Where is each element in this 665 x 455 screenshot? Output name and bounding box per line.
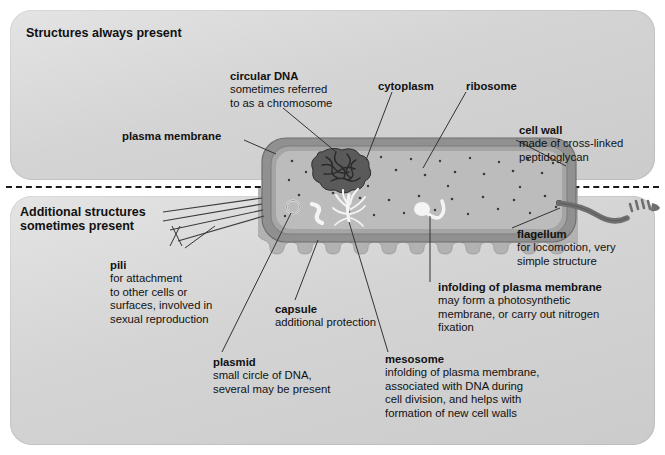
- label-body: for locomotion, very simple structure: [517, 241, 616, 268]
- label-plasma-membrane: plasma membrane: [122, 130, 221, 143]
- label-flagellum: flagellum for locomotion, very simple st…: [517, 228, 616, 268]
- label-heading: plasma membrane: [122, 130, 221, 143]
- label-body: may form a photosynthetic membrane, or c…: [438, 294, 602, 334]
- panel-divider-dashed-line: [6, 186, 659, 188]
- label-heading: flagellum: [517, 228, 616, 241]
- label-infolding-of-plasma-membrane: infolding of plasma membrane may form a …: [438, 281, 602, 335]
- label-heading: plasmid: [213, 356, 330, 369]
- label-heading: cytoplasm: [378, 80, 434, 93]
- panel-title-always-present: Structures always present: [26, 26, 182, 40]
- label-heading: pili: [110, 259, 212, 272]
- label-capsule: capsule additional protection: [275, 303, 376, 330]
- label-body: additional protection: [275, 316, 376, 329]
- label-heading: circular DNA: [230, 70, 332, 83]
- figure-canvas: Structures always present Additional str…: [0, 0, 665, 455]
- label-heading: capsule: [275, 303, 376, 316]
- label-body: sometimes referred to as a chromosome: [230, 83, 332, 110]
- label-body: made of cross-linked peptidoglycan: [519, 137, 623, 164]
- label-body: small circle of DNA, several may be pres…: [213, 369, 330, 396]
- panel-title-sometimes-present: Additional structures sometimes present: [20, 205, 146, 233]
- label-cytoplasm: cytoplasm: [378, 80, 434, 93]
- label-heading: infolding of plasma membrane: [438, 281, 602, 294]
- label-ribosome: ribosome: [466, 80, 517, 93]
- label-pili: pili for attachment to other cells or su…: [110, 259, 212, 326]
- label-circular-dna: circular DNA sometimes referred to as a …: [230, 70, 332, 110]
- label-mesosome: mesosome infolding of plasma membrane, a…: [385, 353, 539, 420]
- label-body: infolding of plasma membrane, associated…: [385, 366, 539, 420]
- label-cell-wall: cell wall made of cross-linked peptidogl…: [519, 124, 623, 164]
- label-heading: ribosome: [466, 80, 517, 93]
- label-heading: cell wall: [519, 124, 623, 137]
- label-heading: mesosome: [385, 353, 539, 366]
- label-plasmid: plasmid small circle of DNA, several may…: [213, 356, 330, 396]
- label-body: for attachment to other cells or surface…: [110, 272, 212, 326]
